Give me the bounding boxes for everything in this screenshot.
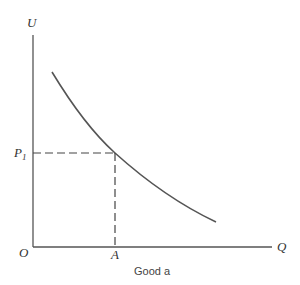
origin-label: O <box>19 245 29 260</box>
y-axis-label: U <box>27 15 38 30</box>
y-marker-label: P1 <box>13 145 26 162</box>
x-marker-label: A <box>110 247 119 262</box>
caption: Good a <box>134 265 171 277</box>
utility-curve <box>52 72 216 222</box>
x-axis-label: Q <box>277 239 287 254</box>
diagram-canvas: U Q O P1 A Good a <box>0 0 300 285</box>
